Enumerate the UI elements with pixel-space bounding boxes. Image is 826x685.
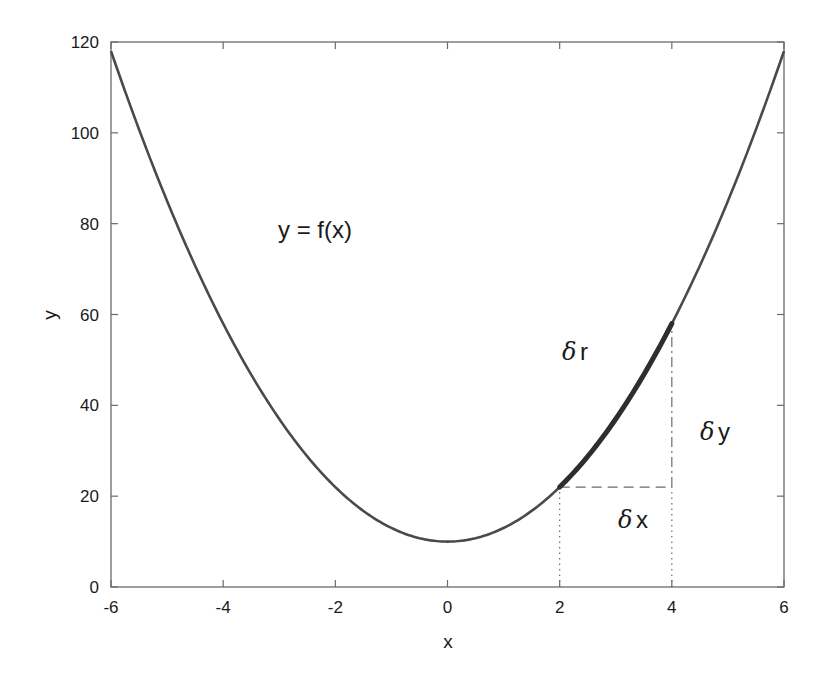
axis-ticks xyxy=(111,42,784,587)
delta-r-label: δ r xyxy=(562,338,588,366)
y-tick-label: 100 xyxy=(71,124,99,143)
delta-y-label: δ y xyxy=(700,418,730,446)
y-axis-label: y xyxy=(39,310,60,320)
tick-labels: -6-4-20246020406080100120 xyxy=(71,33,789,617)
x-tick-label: -4 xyxy=(216,598,231,617)
x-tick-label: 0 xyxy=(443,598,452,617)
x-axis-label: x xyxy=(443,631,453,652)
x-tick-label: 4 xyxy=(667,598,676,617)
curve-line xyxy=(111,51,784,542)
chart: -6-4-20246020406080100120 x y y = f(x) δ… xyxy=(0,0,826,685)
x-tick-label: -6 xyxy=(103,598,118,617)
y-tick-label: 120 xyxy=(71,33,99,52)
function-label: y = f(x) xyxy=(278,216,352,243)
plot-box xyxy=(111,42,784,587)
axes-frame xyxy=(111,42,784,587)
delta-x-label: δ x xyxy=(618,506,648,534)
x-tick-label: 2 xyxy=(555,598,564,617)
parabola-curve xyxy=(111,51,784,542)
delta-symbol: δ xyxy=(562,338,576,366)
y-tick-label: 0 xyxy=(90,578,99,597)
delta-r-arc xyxy=(560,324,672,488)
y-tick-label: 80 xyxy=(80,215,99,234)
y-tick-label: 40 xyxy=(80,396,99,415)
delta-x-var: x xyxy=(636,506,648,533)
delta-symbol: δ xyxy=(618,506,632,534)
delta-r-var: r xyxy=(580,338,588,365)
y-tick-label: 60 xyxy=(80,306,99,325)
delta-y-var: y xyxy=(718,418,730,445)
guide-lines xyxy=(560,324,672,587)
delta-r-segment xyxy=(560,324,672,488)
x-tick-label: 6 xyxy=(779,598,788,617)
delta-symbol: δ xyxy=(700,418,714,446)
y-tick-label: 20 xyxy=(80,487,99,506)
x-tick-label: -2 xyxy=(328,598,343,617)
